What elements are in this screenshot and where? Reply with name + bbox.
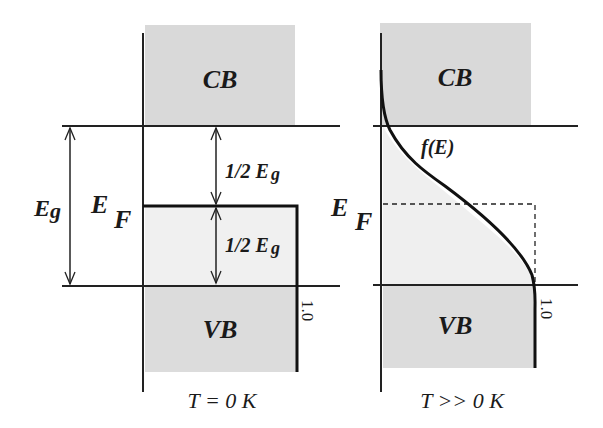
right-fermi-label: E: [330, 193, 348, 222]
left-panel: CB VB E g E F 1/2 E g 1/2 E g 1.0 T = 0 …: [33, 25, 340, 413]
band-gap-subscript: g: [49, 198, 61, 223]
right-panel: CB VB f(E) E F 1.0 T >> 0 K: [330, 23, 578, 413]
distribution-label: f(E): [421, 136, 454, 159]
right-occupancy-value: 1.0: [537, 298, 556, 319]
right-fermi-subscript: F: [354, 207, 372, 236]
left-fermi-subscript: F: [113, 205, 131, 234]
lower-half-gap-label: 1/2 E: [225, 234, 269, 256]
band-diagram: CB VB E g E F 1/2 E g 1/2 E g 1.0 T = 0 …: [0, 0, 603, 428]
left-cb-label: CB: [203, 65, 238, 94]
lower-half-gap-subscript: g: [270, 238, 280, 258]
right-vb-label: VB: [438, 311, 473, 340]
right-temperature-label: T >> 0 K: [420, 388, 505, 413]
left-fermi-label: E: [90, 190, 108, 219]
band-gap-label: E: [33, 195, 50, 221]
left-occupancy-value: 1.0: [298, 300, 317, 321]
left-temperature-label: T = 0 K: [188, 388, 258, 413]
left-vb-label: VB: [203, 315, 238, 344]
upper-half-gap-subscript: g: [270, 164, 280, 184]
right-cb-label: CB: [438, 63, 473, 92]
upper-half-gap-label: 1/2 E: [225, 160, 269, 182]
